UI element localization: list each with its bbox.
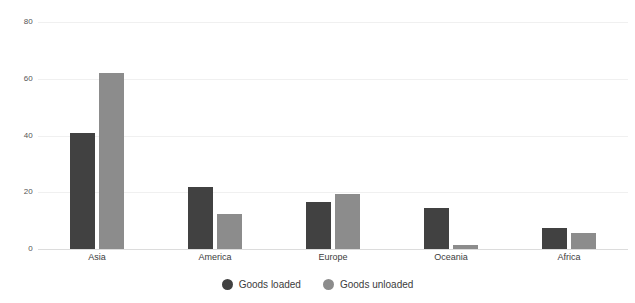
legend-item[interactable]: Goods unloaded [323, 279, 413, 290]
bar [424, 208, 449, 249]
legend-label: Goods loaded [239, 280, 301, 290]
y-tick-label: 0 [3, 245, 33, 253]
bar [542, 228, 567, 249]
bar-group [156, 22, 274, 249]
bar-group [392, 22, 510, 249]
y-tick-label: 80 [3, 18, 33, 26]
bar [306, 202, 331, 249]
x-tick-label: Oceania [392, 252, 510, 263]
bar [70, 133, 95, 249]
bar-group-bars [510, 22, 628, 249]
bar [188, 187, 213, 249]
x-tick-label: America [156, 252, 274, 263]
legend-swatch-circle-icon [222, 279, 233, 290]
bar-chart: 020406080 AsiaAmericaEuropeOceaniaAfrica… [0, 0, 635, 303]
bar-group [274, 22, 392, 249]
bar [99, 73, 124, 249]
y-tick-label: 20 [3, 188, 33, 196]
x-tick-label: Africa [510, 252, 628, 263]
bar-group-bars [274, 22, 392, 249]
bar-group [38, 22, 156, 249]
bar-group [510, 22, 628, 249]
bar [571, 233, 596, 249]
y-tick-label: 60 [3, 75, 33, 83]
bar [335, 194, 360, 249]
chart-legend: Goods loadedGoods unloaded [0, 279, 635, 290]
bar-group-bars [392, 22, 510, 249]
bar-group-bars [156, 22, 274, 249]
bar [453, 245, 478, 249]
y-tick-label: 40 [3, 132, 33, 140]
legend-label: Goods unloaded [340, 280, 413, 290]
x-tick-label: Europe [274, 252, 392, 263]
legend-item[interactable]: Goods loaded [222, 279, 301, 290]
x-tick-label: Asia [38, 252, 156, 263]
axis-baseline [38, 249, 628, 250]
bar [217, 214, 242, 249]
x-axis: AsiaAmericaEuropeOceaniaAfrica [38, 252, 628, 270]
y-axis: 020406080 [0, 22, 33, 249]
legend-swatch-circle-icon [323, 279, 334, 290]
plot-area [38, 22, 628, 249]
bar-group-bars [38, 22, 156, 249]
